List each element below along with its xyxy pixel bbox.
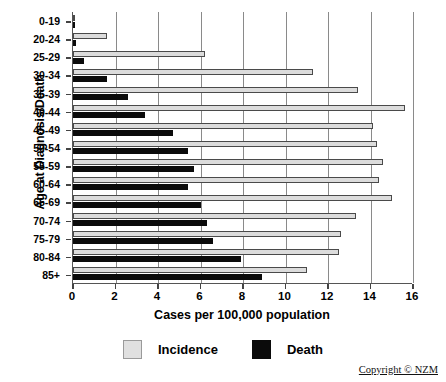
x-axis-tick-label: 0 <box>69 290 75 302</box>
x-axis-tick-label: 2 <box>111 290 117 302</box>
bar-row <box>73 66 412 84</box>
y-axis-tick-label: 30-34 <box>0 66 66 84</box>
y-axis-tick-label: 35-39 <box>0 85 66 103</box>
y-axis-tick <box>66 221 71 223</box>
y-axis-tick-label: 65-69 <box>0 193 66 211</box>
x-axis-tick <box>370 284 372 289</box>
incidence-bar <box>73 87 358 93</box>
incidence-bar <box>73 123 373 129</box>
legend-item: Death <box>252 340 323 359</box>
bar-row <box>73 12 412 30</box>
y-axis-tick-label: 45-49 <box>0 121 66 139</box>
y-axis-tick-label: 85+ <box>0 266 66 284</box>
x-axis-tick-label: 8 <box>239 290 245 302</box>
x-axis-tick-label: 10 <box>278 290 291 302</box>
incidence-bar <box>73 105 405 111</box>
x-axis-tick-label: 12 <box>321 290 334 302</box>
incidence-bar <box>73 249 339 255</box>
y-axis-tick <box>66 184 71 186</box>
bar-row <box>73 120 412 138</box>
incidence-bar <box>73 231 341 237</box>
bar-row <box>73 229 412 247</box>
incidence-bar <box>73 195 392 201</box>
y-axis-tick <box>66 166 71 168</box>
incidence-bar <box>73 141 377 147</box>
y-axis-tick-label: 40-44 <box>0 103 66 121</box>
death-bar <box>73 184 188 190</box>
incidence-bar <box>73 69 313 75</box>
x-axis-tick-label: 16 <box>406 290 419 302</box>
x-axis-tick-labels: 0246810121416 <box>0 290 446 306</box>
y-axis-tick <box>66 75 71 77</box>
y-axis-tick <box>66 21 71 23</box>
y-axis-tick-label: 55-59 <box>0 157 66 175</box>
y-axis-tick-labels: 0-1920-2425-2930-3435-3940-4445-4950-545… <box>0 12 66 284</box>
death-bar <box>73 40 76 46</box>
death-bar <box>73 166 194 172</box>
incidence-bar <box>73 177 379 183</box>
x-axis-tick <box>327 284 329 289</box>
y-axis-tick <box>66 39 71 41</box>
death-swatch <box>252 340 271 359</box>
x-axis-tick <box>242 284 244 289</box>
y-axis-tick <box>66 94 71 96</box>
y-axis-tick <box>66 112 71 114</box>
legend-label: Incidence <box>158 342 218 357</box>
death-bar <box>73 220 207 226</box>
legend-item: Incidence <box>123 340 218 359</box>
plot-frame <box>72 12 412 284</box>
y-axis-tick <box>66 239 71 241</box>
death-bar <box>73 94 128 100</box>
death-bar <box>73 130 173 136</box>
death-bar <box>73 274 262 280</box>
y-axis-tick <box>66 148 71 150</box>
bar-row <box>73 102 412 120</box>
y-axis-tick <box>66 202 71 204</box>
death-bar <box>73 238 213 244</box>
x-axis-tick <box>412 284 414 289</box>
y-axis-tick-label: 70-74 <box>0 212 66 230</box>
death-bar <box>73 256 241 262</box>
y-axis-tick-label: 0-19 <box>0 12 66 30</box>
y-axis-tick <box>66 130 71 132</box>
bar-row <box>73 247 412 265</box>
death-bar <box>73 202 201 208</box>
bar-row <box>73 48 412 66</box>
y-axis-tick-label: 80-84 <box>0 248 66 266</box>
bar-row <box>73 138 412 156</box>
x-axis-tick <box>115 284 117 289</box>
death-bar <box>73 58 84 64</box>
gridline <box>413 12 414 283</box>
y-axis-tick-label: 75-79 <box>0 230 66 248</box>
x-axis-tick-label: 4 <box>154 290 160 302</box>
incidence-bar <box>73 267 307 273</box>
death-bar <box>73 76 107 82</box>
copyright-notice: Copyright © NZM <box>359 364 438 375</box>
death-bar <box>73 22 75 28</box>
bar-row <box>73 157 412 175</box>
bar-row <box>73 30 412 48</box>
y-axis-tick <box>66 257 71 259</box>
incidence-bar <box>73 213 356 219</box>
x-axis-title: Cases per 100,000 population <box>72 308 412 322</box>
y-axis-tick-label: 50-54 <box>0 139 66 157</box>
y-axis-tick-label: 20-24 <box>0 30 66 48</box>
y-axis-tick <box>66 275 71 277</box>
x-axis-tick-label: 14 <box>363 290 376 302</box>
y-axis-tick-label: 60-64 <box>0 175 66 193</box>
chart-figure: Age at Diagnosis/Death 0-1920-2425-2930-… <box>0 0 446 382</box>
incidence-bar <box>73 15 75 21</box>
bar-row <box>73 175 412 193</box>
bar-row <box>73 84 412 102</box>
x-axis-tick-label: 6 <box>196 290 202 302</box>
death-bar <box>73 112 145 118</box>
x-axis-tick <box>285 284 287 289</box>
plot-area <box>72 12 412 284</box>
incidence-bar <box>73 33 107 39</box>
incidence-bar <box>73 159 383 165</box>
bar-row <box>73 265 412 283</box>
death-bar <box>73 148 188 154</box>
y-axis-tick-label: 25-29 <box>0 48 66 66</box>
y-axis-tick <box>66 57 71 59</box>
x-axis-tick <box>200 284 202 289</box>
